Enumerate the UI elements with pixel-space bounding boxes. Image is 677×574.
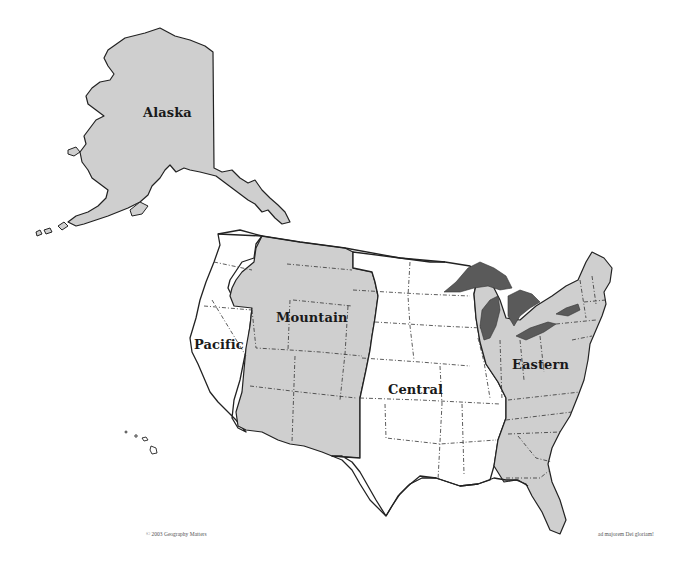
- central-label: Central: [388, 382, 443, 397]
- hawaii-island: [150, 446, 157, 454]
- mountain-zone: [230, 236, 378, 458]
- eastern-label: Eastern: [512, 357, 569, 372]
- alaska-shape: [68, 28, 290, 226]
- alaska-label: Alaska: [143, 105, 192, 120]
- hawaii-island: [142, 437, 148, 441]
- motto-note: ad majorem Dei gloriam!: [598, 531, 654, 537]
- mountain-label: Mountain: [276, 310, 348, 325]
- copyright-note: © 2003 Geography Matters: [146, 531, 207, 537]
- hawaii-island: [125, 431, 127, 433]
- alaska-region: [36, 28, 290, 236]
- pacific-label: Pacific: [194, 337, 244, 352]
- time-zone-map: [0, 0, 677, 574]
- hawaii-island: [135, 435, 137, 437]
- hawaii-islands: [125, 431, 157, 454]
